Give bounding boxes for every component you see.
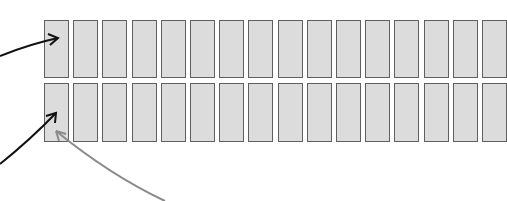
gray-arrow-bottom-icon xyxy=(56,131,165,201)
black-arrow-top-icon xyxy=(0,34,58,56)
black-arrow-bottom-icon xyxy=(0,113,56,164)
